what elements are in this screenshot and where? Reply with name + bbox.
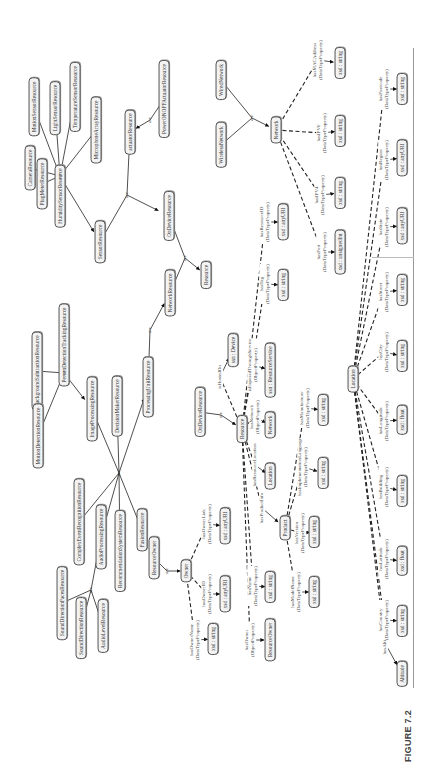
property-label: hasOwnerLink(DataTypeProperty) [201, 504, 213, 544]
property-label: hasLongitude(DataTypeProperty) [378, 401, 390, 441]
class-node: Owner [181, 560, 192, 583]
datatype-node: xsd : string [265, 571, 276, 603]
property-label: hasOwnerName(DataTypeProperty) [189, 620, 201, 660]
isa-label: are [61, 370, 67, 376]
property-label: hasProductInfo [259, 493, 265, 524]
property-label: hasModelName(DataTypeProperty) [290, 572, 302, 612]
class-node: ResourceOwner [149, 537, 160, 580]
property-label: hasLatitude(DataTypeProperty) [378, 539, 390, 579]
datatype-node: xsd : string [208, 623, 219, 655]
datatype-node: xsd : string [309, 576, 320, 608]
class-node: AudioLevelResource [98, 599, 109, 653]
class-node: SoundDirectionResource [76, 597, 87, 659]
class-node: CameraResource [25, 146, 36, 191]
class-node: BackgroundSubtractionResource [32, 331, 43, 410]
class-node: FusionResource [137, 509, 148, 552]
isa-label: are [218, 412, 224, 418]
class-node: Resource [201, 261, 212, 289]
class-node: ProcessingUnitResource [143, 357, 154, 418]
class-node: Network [271, 117, 282, 144]
datatype-node: xsd : float [397, 405, 408, 435]
class-node: ComplexEventRecognitionResource [74, 479, 85, 566]
property-label: hasIPV6(DataTypeProperty) [316, 113, 328, 153]
property-label: hasNetwork(ObjectProperty) [249, 400, 261, 434]
property-label: hasMACAddress(DataTypeProperty) [312, 40, 324, 80]
datatype-node: xsd : string [335, 115, 346, 147]
class-node: ssn : Device [228, 333, 239, 367]
datatype-node: xsd : anyURI [278, 204, 289, 241]
datatype-node: xsd : string [309, 516, 320, 548]
class-node: ssn : ResourceService [265, 342, 276, 397]
property-label: hasName(DataTypeProperty) [247, 566, 259, 606]
class-node: MotionDetectionResource [33, 404, 44, 469]
datatype-node: xsd : string [397, 274, 408, 306]
isa-label: are [147, 117, 153, 123]
class-node: AudioProcessingResource [96, 505, 107, 570]
class-node: SoundDirectionFacesResource [57, 566, 68, 640]
class-node: RecommendationSystemResource [115, 510, 126, 592]
class-node: WiredNetwork [216, 60, 227, 100]
property-label: hasVersion(DataTypeProperty) [294, 513, 306, 553]
property-label: hasOwnerID(DataTypeProperty) [201, 574, 213, 614]
isa-label: are [116, 470, 122, 476]
datatype-node: xsd : string [335, 47, 346, 79]
isa-label: are [124, 192, 130, 198]
property-label: hasOwner(ObjectProperty) [244, 623, 256, 657]
class-node: Resource [237, 415, 248, 443]
class-node: TemperatureSensorResource [70, 62, 81, 132]
datatype-node: xsd : string [397, 605, 408, 637]
datatype-node: xsd : unsignedInt [335, 229, 346, 274]
property-label: hasResourceLocation [252, 443, 258, 486]
datatype-node: xsd : string [397, 475, 408, 507]
property-label: hasImplementationLanguage(DataTypeProper… [297, 438, 309, 496]
datatype-node: xsd : float [397, 546, 408, 576]
class-node: PlugMeterResource [37, 159, 48, 210]
property-label: hasResourceID(DataTypeProperty) [259, 202, 271, 242]
class-node: MicrophoneArrayResource [91, 97, 102, 164]
class-node: Location [265, 462, 276, 489]
datatype-node: xsd : string [278, 269, 289, 301]
class-node: SensorResource [95, 221, 106, 264]
datatype-node: xsd : string [397, 73, 408, 105]
bottom-rule [413, 48, 414, 688]
property-label: hasManufacturer(DataTypeProperty) [299, 388, 311, 428]
class-node: ResourceOwner [265, 619, 276, 662]
datatype-node: xsd : anyURI [397, 140, 408, 177]
class-node: NetworkResource [165, 270, 176, 317]
class-node: actuatorResource [125, 109, 136, 154]
property-label: hasBuilding(DataTypeProperty) [378, 467, 390, 507]
class-node: OnDeviceResource [195, 387, 206, 437]
property-label: hasStreet(DataTypeProperty) [378, 272, 390, 312]
property-label: isHostedOn [217, 365, 223, 389]
class-node: Altitude [397, 661, 408, 687]
ontology-diagram: MotionSensorResourceLightSensorResourceT… [0, 0, 423, 770]
property-label: hasCity(DataTypeProperty) [378, 332, 390, 372]
class-node: WirelessNetwork [216, 122, 227, 168]
datatype-node: xsd : anyURI [397, 208, 408, 245]
isa-label: are [249, 115, 255, 121]
divider-line [372, 257, 414, 258]
datatype-node: xsd : anyURI [220, 508, 231, 545]
property-label: hasState(DataTypeProperty) [378, 207, 390, 247]
isa-label: are [57, 173, 63, 179]
class-node: Product [280, 516, 291, 541]
figure-caption: FIGURE 7.2 [403, 710, 413, 762]
datatype-node: xsd : string [397, 340, 408, 372]
property-label: hasPostcode(DataTypeProperty) [378, 69, 390, 109]
property-label: hasCountry(DataTypeProperty) [378, 600, 390, 640]
class-node: PowerONOFFActuatorResource [159, 60, 170, 138]
class-node: Network [265, 412, 276, 439]
datatype-node: xsd : anyURI [220, 576, 231, 613]
datatype-node: xsd : string [335, 177, 346, 209]
property-label: hasIPV4(DataTypeProperty) [314, 175, 326, 215]
class-node: DecisionMakerResource [112, 375, 123, 436]
class-node: MotionSensorResource [29, 78, 40, 137]
class-node: ImageProcessingResource [87, 377, 98, 442]
datatype-node: xsd : string [318, 394, 329, 426]
isa-label: are [164, 568, 170, 574]
property-label: hasTag(DataTypeProperty) [259, 264, 271, 304]
class-node: Location [348, 365, 359, 392]
class-node: LightSensorResource [50, 81, 61, 135]
property-label: hasPort(DataTypeProperty) [316, 232, 328, 272]
isa-label: are [88, 587, 94, 593]
